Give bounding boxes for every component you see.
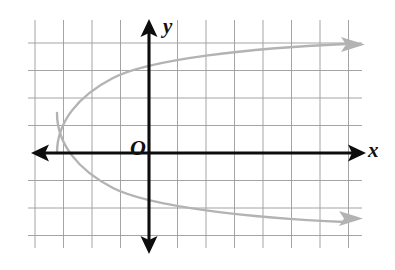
axes	[40, 28, 357, 245]
parabola-arrowheads	[339, 37, 365, 226]
y-axis-label: y	[163, 16, 172, 37]
origin-label: O	[130, 137, 146, 159]
x-axis-label: x	[368, 140, 379, 161]
grid-lines	[28, 20, 362, 248]
parabola-upper-branch	[57, 44, 345, 153]
parabola-lower-branch	[57, 113, 345, 222]
curve-arrow-lower-icon	[339, 211, 363, 226]
coordinate-plane	[0, 0, 395, 270]
graph-figure: y x O	[0, 0, 395, 270]
axis-arrowheads	[31, 19, 366, 254]
